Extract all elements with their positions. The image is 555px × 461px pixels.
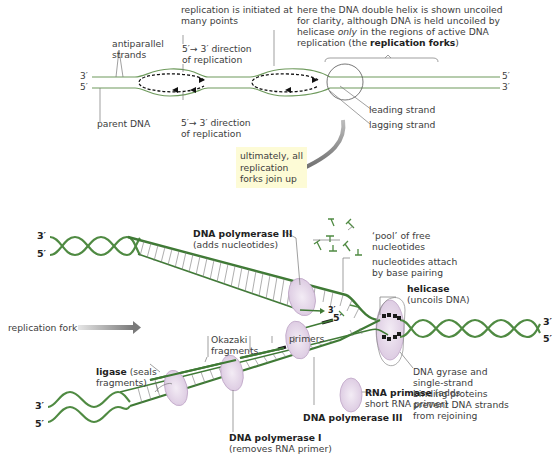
- label-line: helicase only in the regions of active D…: [297, 26, 503, 37]
- label-line: 5′→ 3′ direction: [181, 117, 251, 128]
- label-parent-dna: parent DNA: [97, 118, 150, 129]
- end-label: 5′: [35, 418, 44, 429]
- direction-arrowheads: [172, 77, 318, 93]
- label-line: DNA gyrase and: [413, 366, 509, 377]
- label-line: RNA primase (adds: [365, 387, 460, 398]
- label-direction-bottom: 5′→ 3′ direction of replication: [181, 117, 251, 139]
- label-line: of replication: [181, 128, 251, 139]
- label-line: from rejoining: [413, 410, 509, 421]
- label-sub: (seals: [127, 366, 157, 377]
- label-line: many points: [181, 15, 293, 26]
- label-bold: RNA primase: [365, 387, 432, 398]
- label-bold: helicase: [407, 283, 470, 294]
- end-label: 3′: [35, 400, 44, 411]
- label-initiated: replication is initiated at many points: [181, 4, 293, 26]
- label-lagging-strand: lagging strand: [369, 119, 435, 130]
- end-label: 3′: [80, 71, 88, 81]
- emphasis: only: [338, 26, 357, 37]
- label-line: Okazaki: [211, 334, 258, 345]
- label-primers: primers: [289, 333, 324, 344]
- end-label: 5′: [37, 248, 46, 259]
- label-line: short RNA primer): [365, 398, 460, 409]
- label-antiparallel: antiparallel strands: [112, 38, 164, 60]
- label-line: for clarity, although DNA is held uncoil…: [297, 15, 503, 26]
- join-up-note: ultimately, all replication forks join u…: [236, 147, 307, 188]
- label-line: replication (the replication forks): [297, 37, 503, 48]
- text: ): [455, 37, 459, 48]
- bold-text: replication forks: [370, 37, 455, 48]
- note-line: forks join up: [240, 173, 303, 185]
- label-sub: (adds nucleotides): [193, 239, 292, 250]
- end-label: 5′: [333, 312, 342, 323]
- dna-polymerase-i-enzyme: [218, 353, 246, 392]
- text: replication (the: [297, 37, 370, 48]
- label-line: by base pairing: [372, 267, 457, 278]
- label-sub: (adds: [432, 387, 461, 398]
- label-sub: (uncoils DNA): [407, 294, 470, 305]
- end-label: 5′: [80, 82, 88, 92]
- fork-circle: [327, 64, 363, 100]
- text: in the regions of active DNA: [357, 26, 489, 37]
- label-ligase: ligase (seals fragments): [96, 366, 157, 388]
- rna-primase-enzyme: [340, 378, 362, 412]
- label-direction-top: 5′→ 3′ direction of replication: [182, 43, 252, 65]
- right-helix: [400, 320, 540, 337]
- label-pool: ‘pool’ of free nucleotides: [372, 230, 430, 252]
- label-line: here the DNA double helix is shown uncoi…: [297, 4, 503, 15]
- label-bold: ligase: [96, 366, 127, 377]
- label-dna-polymerase-iii-bottom: DNA polymerase III: [303, 412, 402, 423]
- label-line: strands: [112, 49, 164, 60]
- end-label: 5′: [543, 333, 552, 344]
- end-label: 3′: [543, 316, 552, 327]
- end-label: 3′: [502, 82, 510, 92]
- label-line: nucleotides attach: [372, 256, 457, 267]
- text: helicase: [297, 26, 338, 37]
- label-bold: DNA polymerase I: [229, 432, 332, 443]
- label-line: of replication: [182, 54, 252, 65]
- label-dna-polymerase-iii-top: DNA polymerase III (adds nucleotides): [193, 228, 292, 250]
- replication-fork-arrow: [78, 325, 133, 330]
- label-line: fragments: [211, 345, 258, 356]
- label-line: 5′→ 3′ direction: [182, 43, 252, 54]
- dna-polymerase-iii-top-enzyme: [285, 275, 320, 318]
- end-label: 5′: [502, 71, 510, 81]
- label-attach: nucleotides attach by base pairing: [372, 256, 457, 278]
- label-line: fragments): [96, 377, 157, 388]
- label-helix-note: here the DNA double helix is shown uncoi…: [297, 4, 503, 48]
- lower-left-helix: [48, 392, 130, 422]
- label-rna-primase: RNA primase (adds short RNA primer): [365, 387, 460, 409]
- label-line: ligase (seals: [96, 366, 157, 377]
- label-replication-fork: replication fork: [8, 322, 77, 333]
- upper-base-pairs: [140, 241, 359, 318]
- label-leading-strand: leading strand: [369, 104, 435, 115]
- note-line: replication: [240, 162, 303, 174]
- note-line: ultimately, all: [240, 150, 303, 162]
- label-dna-polymerase-i: DNA polymerase I (removes RNA primer): [229, 432, 332, 454]
- label-line: antiparallel: [112, 38, 164, 49]
- label-line: replication is initiated at: [181, 4, 293, 15]
- label-line: nucleotides: [372, 241, 430, 252]
- end-label: 3′: [37, 230, 46, 241]
- upper-left-helix: [50, 237, 140, 255]
- label-line: ‘pool’ of free: [372, 230, 430, 241]
- label-helicase: helicase (uncoils DNA): [407, 283, 470, 305]
- label-okazaki: Okazaki fragments: [211, 334, 258, 356]
- label-bold: DNA polymerase III: [193, 228, 292, 239]
- label-sub: (removes RNA primer): [229, 443, 332, 454]
